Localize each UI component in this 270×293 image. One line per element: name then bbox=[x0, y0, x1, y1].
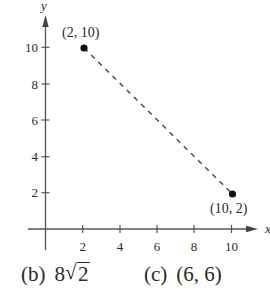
answer-c-label: (c) bbox=[144, 262, 167, 286]
point-2-10 bbox=[80, 44, 87, 51]
point-label-10-2: (10, 2) bbox=[210, 201, 248, 217]
answer-c-value: (6, 6) bbox=[176, 262, 222, 286]
x-tick-label: 10 bbox=[225, 239, 238, 254]
x-tick-label: 2 bbox=[79, 239, 86, 254]
answer-b-label: (b) bbox=[21, 262, 46, 286]
y-tick-label: 4 bbox=[32, 149, 39, 164]
square-root: √2 bbox=[65, 262, 90, 287]
point-label-2-10: (2, 10) bbox=[62, 25, 100, 41]
chart-figure: y x 2 4 6 8 10 10 8 bbox=[0, 0, 270, 293]
radicand: 2 bbox=[77, 262, 90, 285]
y-tick-label: 8 bbox=[32, 77, 39, 92]
chart-plot: y x 2 4 6 8 10 10 8 bbox=[0, 0, 270, 262]
radical-icon: √ bbox=[65, 260, 77, 285]
y-tick-label: 10 bbox=[25, 40, 38, 55]
answers-row: (b)8√2 (c)(6, 6) bbox=[0, 262, 270, 293]
y-tick-label: 6 bbox=[32, 113, 39, 128]
dashed-segment bbox=[84, 48, 232, 194]
answer-b: (b)8√2 bbox=[21, 262, 90, 287]
x-tick-label: 6 bbox=[154, 239, 161, 254]
x-tick-label: 8 bbox=[191, 239, 198, 254]
x-axis-label: x bbox=[264, 221, 270, 236]
answer-b-coefficient: 8 bbox=[55, 262, 66, 286]
x-tick-label: 4 bbox=[117, 239, 124, 254]
point-10-2 bbox=[229, 190, 236, 197]
y-tick-label: 2 bbox=[32, 185, 39, 200]
x-axis-arrow-icon bbox=[246, 226, 258, 232]
answer-c: (c)(6, 6) bbox=[144, 262, 222, 287]
y-axis-arrow-icon bbox=[42, 15, 48, 27]
y-axis-label: y bbox=[39, 0, 47, 13]
